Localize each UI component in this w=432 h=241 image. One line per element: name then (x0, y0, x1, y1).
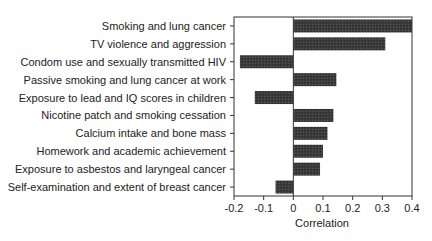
bar (293, 127, 327, 140)
category-label: TV violence and aggression (90, 38, 226, 50)
x-tick-label: -0.2 (225, 202, 244, 214)
bar (293, 163, 320, 176)
x-tick-label: 0.1 (315, 202, 330, 214)
bar (293, 109, 333, 122)
bars-group (240, 19, 412, 193)
bar (276, 181, 294, 194)
x-tick-label: -0.1 (254, 202, 273, 214)
x-tick-label: 0.3 (375, 202, 390, 214)
x-tick-label: 0 (290, 202, 296, 214)
category-labels: Smoking and lung cancerTV violence and a… (8, 20, 234, 193)
category-label: Condom use and sexually transmitted HIV (21, 56, 227, 68)
bar (293, 19, 412, 32)
category-label: Self-examination and extent of breast ca… (8, 181, 227, 193)
bar (293, 73, 336, 86)
bar (240, 55, 293, 68)
category-label: Smoking and lung cancer (102, 20, 226, 32)
bar (293, 145, 323, 158)
x-tick-label: 0.2 (345, 202, 360, 214)
x-axis-label: Correlation (295, 217, 349, 229)
category-label: Nicotine patch and smoking cessation (41, 109, 226, 121)
category-label: Calcium intake and bone mass (76, 127, 227, 139)
category-label: Homework and academic achievement (36, 145, 226, 157)
x-tick-label: 0.4 (404, 202, 419, 214)
bar (293, 37, 385, 50)
x-axis-ticks: -0.2-0.100.10.20.30.4 (225, 196, 420, 214)
category-label: Exposure to lead and IQ scores in childr… (19, 92, 226, 104)
category-label: Passive smoking and lung cancer at work (24, 74, 227, 86)
correlation-bar-chart: Smoking and lung cancerTV violence and a… (0, 0, 432, 241)
category-label: Exposure to asbestos and laryngeal cance… (15, 163, 226, 175)
bar (255, 91, 294, 104)
